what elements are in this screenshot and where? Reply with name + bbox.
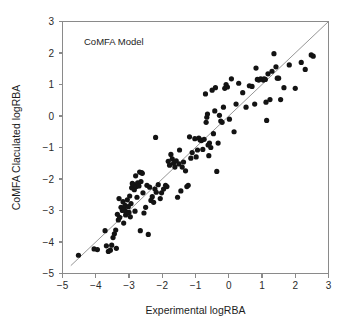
data-point	[273, 64, 278, 69]
model-annotation-label: CoMFA Model	[84, 36, 144, 47]
data-point	[271, 51, 276, 56]
data-point	[138, 179, 143, 184]
y-tick-label: 2	[48, 48, 54, 59]
data-point	[164, 184, 169, 189]
y-tick-label: −2	[43, 174, 55, 185]
data-point	[150, 194, 155, 199]
data-point	[243, 105, 248, 110]
data-point	[249, 84, 254, 89]
data-point	[109, 243, 114, 248]
data-point	[190, 150, 195, 155]
data-point	[202, 137, 207, 142]
data-point	[269, 69, 274, 74]
data-point	[200, 147, 205, 152]
data-point	[126, 210, 131, 215]
y-tick-label: −1	[43, 142, 55, 153]
data-point	[141, 210, 146, 215]
x-tick-label: 0	[226, 280, 232, 291]
data-point	[214, 169, 219, 174]
x-tick-label: −3	[123, 280, 135, 291]
data-point	[231, 129, 236, 134]
data-point	[253, 66, 258, 71]
data-point	[113, 227, 118, 232]
data-point	[188, 156, 193, 161]
data-point	[207, 140, 212, 145]
data-point	[187, 134, 192, 139]
data-point	[227, 117, 232, 122]
data-point	[303, 67, 308, 72]
data-point	[76, 253, 81, 258]
data-point	[194, 154, 199, 159]
x-tick-label: 1	[259, 280, 265, 291]
scatter-plot-figure: −5 −4 −3 −2 −1 0 1 2 3 3 2 1 0 −1 −2 −3 …	[0, 0, 345, 323]
data-point	[281, 85, 286, 90]
data-point	[156, 182, 161, 187]
data-point	[133, 173, 138, 178]
data-point	[311, 54, 316, 59]
data-point	[264, 118, 269, 123]
data-point	[127, 193, 132, 198]
data-point	[186, 183, 191, 188]
data-point	[95, 247, 100, 252]
x-tick-label: 2	[292, 280, 298, 291]
data-point	[128, 214, 133, 219]
data-point	[117, 215, 122, 220]
y-tick-label: −4	[43, 237, 55, 248]
y-tick-label: 0	[48, 111, 54, 122]
data-point	[128, 201, 133, 206]
data-point	[178, 188, 183, 193]
data-point	[217, 113, 222, 118]
data-point	[208, 145, 213, 150]
data-point	[225, 84, 230, 89]
data-point	[102, 228, 107, 233]
data-point	[205, 112, 210, 117]
data-point	[278, 97, 283, 102]
data-point	[132, 209, 137, 214]
data-point	[221, 105, 226, 110]
data-point	[233, 101, 238, 106]
x-tick-label: −1	[190, 280, 202, 291]
data-point	[204, 120, 209, 125]
data-point	[240, 90, 245, 95]
data-point	[140, 190, 145, 195]
data-point	[195, 147, 200, 152]
data-point	[104, 243, 109, 248]
data-point	[212, 108, 217, 113]
data-point	[140, 171, 145, 176]
data-point	[168, 152, 173, 157]
data-point	[299, 60, 304, 65]
y-tick-label: −3	[43, 205, 55, 216]
data-point	[229, 76, 234, 81]
data-point	[220, 120, 225, 125]
x-tick-label: 3	[326, 280, 332, 291]
data-point	[203, 91, 208, 96]
data-point	[276, 76, 281, 81]
data-point	[267, 97, 272, 102]
data-point	[211, 131, 216, 136]
data-point	[121, 221, 126, 226]
data-point	[181, 159, 186, 164]
y-tick-label: 3	[48, 16, 54, 27]
data-point	[206, 153, 211, 158]
data-point	[175, 195, 180, 200]
data-point	[158, 196, 163, 201]
data-point	[263, 77, 268, 82]
chart-svg: −5 −4 −3 −2 −1 0 1 2 3 3 2 1 0 −1 −2 −3 …	[0, 0, 345, 323]
data-point	[108, 248, 113, 253]
y-axis-title: CoMFA Claculated logRBA	[10, 85, 22, 210]
y-tick-label: 1	[48, 79, 54, 90]
x-tick-label: −5	[57, 280, 69, 291]
data-point	[143, 205, 148, 210]
data-point	[134, 195, 139, 200]
data-point	[138, 228, 143, 233]
data-point	[216, 140, 221, 145]
data-point	[183, 168, 188, 173]
x-tick-label: −2	[157, 280, 169, 291]
data-point	[177, 147, 182, 152]
data-point	[147, 185, 152, 190]
y-tick-label: −5	[43, 268, 55, 279]
data-point	[146, 232, 151, 237]
data-point	[151, 200, 156, 205]
data-point	[153, 135, 158, 140]
data-point	[114, 246, 119, 251]
